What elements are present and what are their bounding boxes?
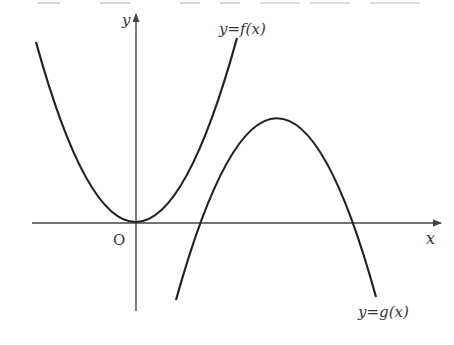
curve-f-label: y=f(x) (218, 20, 266, 38)
y-axis-label: y (121, 11, 131, 29)
curve-g (176, 118, 376, 300)
origin-label: O (113, 231, 125, 249)
curve-g-label: y=g(x) (357, 303, 409, 321)
function-graph: y x O y=f(x) y=g(x) (0, 0, 454, 345)
x-axis-label: x (426, 229, 435, 248)
